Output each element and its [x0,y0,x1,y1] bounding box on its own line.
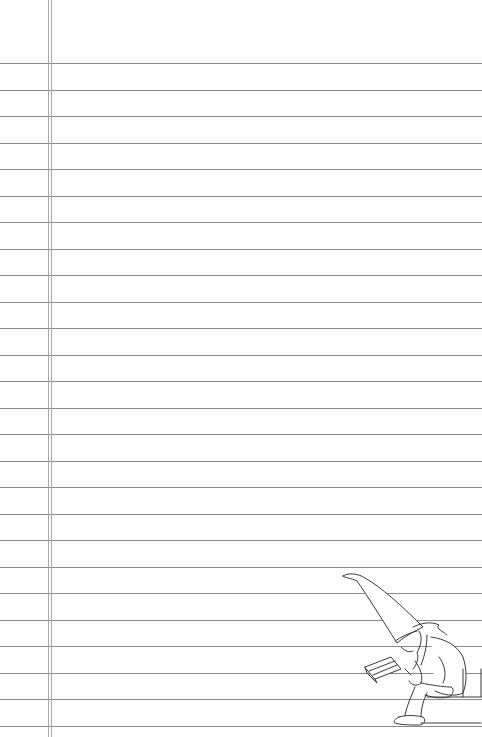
ruled-line [0,196,482,197]
ruled-line [0,90,482,91]
lined-paper [0,0,482,737]
margin-line-left [48,0,49,737]
ruled-line [0,169,482,170]
ruled-line [0,461,482,462]
ruled-line [0,328,482,329]
ruled-line [0,434,482,435]
ruled-line [0,540,482,541]
ruled-line [0,143,482,144]
ruled-line [0,514,482,515]
ruled-line [0,63,482,64]
ruled-line [0,302,482,303]
gnome-illustration [335,565,482,737]
ruled-line [0,487,482,488]
ruled-line [0,408,482,409]
ruled-line [0,116,482,117]
ruled-line [0,381,482,382]
ruled-line [0,249,482,250]
margin-line-right [51,0,52,737]
ruled-line [0,355,482,356]
ruled-line [0,222,482,223]
ruled-line [0,275,482,276]
